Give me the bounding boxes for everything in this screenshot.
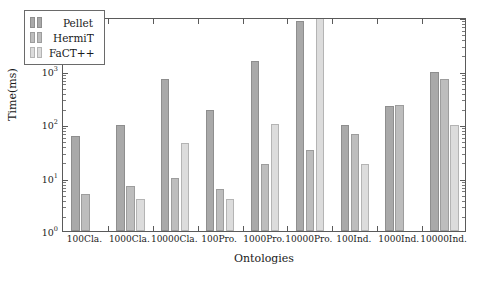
legend-label: Pellet [63, 17, 93, 29]
y-minor-tick [462, 185, 465, 186]
bar-factplusplus-10000Cla [181, 143, 190, 231]
bar-factplusplus-1000Cla [136, 199, 145, 231]
y-minor-tick [462, 163, 465, 164]
y-minor-tick [63, 147, 66, 148]
x-axis-tick-labels: 100Cla.1000Cla.10000Cla.100Pro.1000Pro.1… [62, 234, 466, 250]
bar-hermit-1000Cla [126, 186, 135, 231]
x-tick-label-1000Cla: 1000Cla. [109, 234, 150, 244]
bar-hermit-1000Pro [261, 164, 270, 231]
y-minor-tick [462, 40, 465, 41]
bar-factplusplus-100Pro [226, 199, 235, 231]
y-tick-label: 103 [42, 66, 58, 77]
y-minor-tick [462, 84, 465, 85]
legend-swatch-group [30, 32, 42, 43]
y-minor-tick [462, 35, 465, 36]
legend-item-hermit: HermiT [30, 30, 94, 45]
y-minor-tick [462, 21, 465, 22]
y-minor-tick [63, 94, 66, 95]
x-tick-label-100Ind: 100Ind. [336, 234, 371, 244]
bar-hermit-100Ind [351, 134, 360, 231]
y-minor-tick [63, 89, 66, 90]
y-minor-tick [63, 201, 66, 202]
y-minor-tick [462, 182, 465, 183]
x-tick [422, 19, 423, 24]
y-minor-tick [462, 217, 465, 218]
y-minor-tick [462, 47, 465, 48]
bar-pellet-100Pro [206, 110, 215, 231]
bar-pellet-1000Ind [385, 106, 394, 231]
bar-pellet-1000Cla [116, 125, 125, 231]
x-tick-label-10000Cla: 10000Cla. [151, 234, 198, 244]
y-minor-tick [462, 94, 465, 95]
y-minor-tick [63, 81, 66, 82]
legend-item-factplusplus: FaCT++ [30, 45, 94, 60]
bar-hermit-10000Ind [440, 79, 449, 231]
y-minor-tick [462, 75, 465, 76]
y-major-tick [460, 126, 465, 127]
legend-color-swatch [30, 17, 35, 28]
bar-factplusplus-10000Ind [450, 125, 459, 231]
y-minor-tick [462, 201, 465, 202]
x-tick [377, 19, 378, 24]
chart-figure: Time(ms) 100101102103104 100Cla.1000Cla.… [0, 0, 496, 288]
y-minor-tick [63, 110, 66, 111]
y-minor-tick [63, 142, 66, 143]
bar-pellet-10000Cla [161, 79, 170, 231]
y-minor-tick [63, 154, 66, 155]
y-major-tick [460, 73, 465, 74]
x-tick [287, 226, 288, 231]
y-tick-label: 102 [42, 120, 58, 131]
y-minor-tick [63, 207, 66, 208]
y-minor-tick [63, 185, 66, 186]
y-minor-tick [63, 131, 66, 132]
legend-color-swatch [37, 32, 42, 43]
bar-pellet-10000Pro [296, 21, 305, 231]
bar-hermit-10000Pro [306, 150, 315, 231]
bar-hermit-1000Ind [395, 105, 404, 231]
bar-hermit-100Cla [81, 194, 90, 231]
y-major-tick [63, 73, 68, 74]
y-minor-tick [462, 207, 465, 208]
x-tick-label-100Cla: 100Cla. [67, 234, 102, 244]
legend-color-swatch [30, 47, 35, 58]
bar-factplusplus-100Ind [361, 164, 370, 231]
y-minor-tick [462, 191, 465, 192]
y-tick-label: 100 [42, 227, 58, 238]
legend-swatch-group [30, 47, 42, 58]
y-minor-tick [63, 84, 66, 85]
y-minor-tick [462, 110, 465, 111]
y-minor-tick [462, 134, 465, 135]
y-minor-tick [462, 27, 465, 28]
x-tick [153, 226, 154, 231]
legend-color-swatch [37, 17, 42, 28]
bar-hermit-100Pro [216, 189, 225, 231]
y-minor-tick [462, 138, 465, 139]
bar-factplusplus-10000Pro [316, 18, 325, 231]
x-tick [108, 226, 109, 231]
y-major-tick [63, 126, 68, 127]
y-minor-tick [462, 89, 465, 90]
y-minor-tick [63, 134, 66, 135]
legend-label: HermiT [53, 32, 94, 44]
y-minor-tick [462, 31, 465, 32]
y-minor-tick [462, 188, 465, 189]
y-minor-tick [63, 128, 66, 129]
y-tick-label: 101 [42, 173, 58, 184]
legend-color-swatch [30, 32, 35, 43]
y-minor-tick [63, 191, 66, 192]
y-minor-tick [63, 138, 66, 139]
x-tick-label-10000Pro: 10000Pro. [285, 234, 332, 244]
x-tick [332, 226, 333, 231]
legend-color-swatch [37, 47, 42, 58]
y-minor-tick [462, 100, 465, 101]
x-tick [153, 19, 154, 24]
y-minor-tick [462, 78, 465, 79]
x-tick [287, 19, 288, 24]
y-minor-tick [63, 196, 66, 197]
x-tick [108, 19, 109, 24]
y-minor-tick [462, 128, 465, 129]
x-tick-label-100Pro: 100Pro. [201, 234, 237, 244]
plot-area [62, 18, 466, 232]
y-minor-tick [63, 163, 66, 164]
y-major-tick [63, 180, 68, 181]
